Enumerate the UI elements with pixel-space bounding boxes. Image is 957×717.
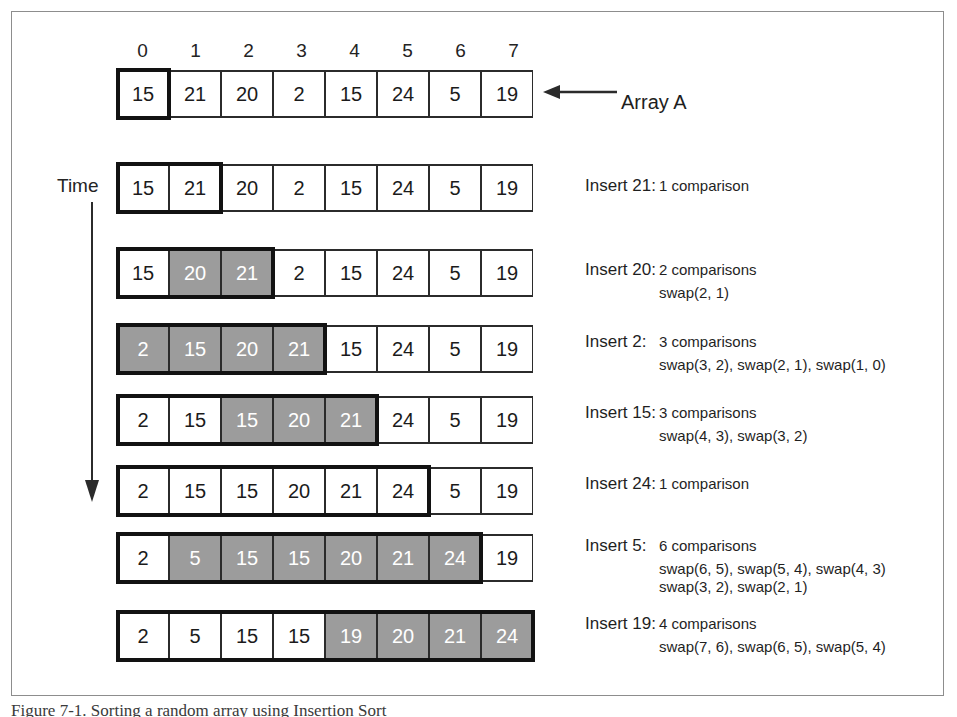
array-cell: 24 [376, 396, 429, 444]
array-cell: 20 [220, 325, 273, 373]
array-cell: 21 [168, 164, 221, 212]
column-index-6: 6 [434, 40, 487, 62]
array-cell: 15 [116, 249, 169, 297]
annotation-insert-19: Insert 19:4 comparisonsswap(7, 6), swap(… [585, 614, 886, 655]
comparison-count: 1 comparison [659, 177, 749, 194]
annotation-insert-21: Insert 21:1 comparison [585, 176, 749, 196]
column-index-5: 5 [381, 40, 434, 62]
array-cell: 5 [428, 249, 481, 297]
array-cell: 21 [168, 70, 221, 118]
array-a-label: Array A [621, 91, 687, 114]
column-index-header: 01234567 [116, 40, 540, 62]
array-cell: 19 [480, 164, 533, 212]
array-row-insert-19: 25151519202124 [116, 612, 532, 660]
array-cell: 21 [376, 534, 429, 582]
array-cell: 20 [220, 70, 273, 118]
array-a-arrow-icon [543, 82, 619, 106]
array-cell: 21 [428, 612, 481, 660]
time-axis-label: Time [57, 175, 99, 197]
array-cell: 19 [480, 325, 533, 373]
array-cell: 24 [428, 534, 481, 582]
comparison-count: 6 comparisons [659, 537, 757, 554]
array-row-insert-2: 21520211524519 [116, 325, 532, 373]
array-cell: 15 [168, 467, 221, 515]
annotation-insert-15: Insert 15:3 comparisonsswap(4, 3), swap(… [585, 403, 807, 444]
annotation-insert-24: Insert 24:1 comparison [585, 474, 749, 494]
array-row-insert-21: 15212021524519 [116, 164, 532, 212]
array-cell: 15 [116, 164, 169, 212]
array-cell: 20 [272, 396, 325, 444]
array-cell: 5 [428, 467, 481, 515]
annotation-insert-2: Insert 2:3 comparisonsswap(3, 2), swap(2… [585, 332, 886, 373]
array-row-initial-array: 15212021524519 [116, 70, 532, 118]
array-cell: 15 [220, 534, 273, 582]
array-cell: 21 [324, 467, 377, 515]
array-cell: 24 [376, 70, 429, 118]
array-row-insert-20: 15202121524519 [116, 249, 532, 297]
insert-label: Insert 20: [585, 260, 659, 280]
array-cell: 2 [272, 70, 325, 118]
array-cell: 15 [324, 249, 377, 297]
comparison-count: 3 comparisons [659, 404, 757, 421]
comparison-count: 2 comparisons [659, 261, 757, 278]
insert-label: Insert 15: [585, 403, 659, 423]
array-cell: 5 [168, 612, 221, 660]
array-cell: 15 [324, 70, 377, 118]
array-cell: 19 [480, 70, 533, 118]
comparison-count: 1 comparison [659, 475, 749, 492]
array-cell: 15 [272, 534, 325, 582]
array-cell: 5 [428, 164, 481, 212]
array-cell: 5 [428, 70, 481, 118]
array-cell: 5 [168, 534, 221, 582]
array-cell: 2 [272, 164, 325, 212]
array-cell: 15 [272, 612, 325, 660]
array-cell: 15 [324, 164, 377, 212]
array-cell: 20 [324, 534, 377, 582]
time-arrow-icon [82, 202, 102, 506]
array-cell: 15 [116, 70, 169, 118]
array-row-insert-15: 21515202124519 [116, 396, 532, 444]
figure-frame: 01234567 Time Array A 152120215245191521… [11, 11, 944, 696]
insert-label: Insert 24: [585, 474, 659, 494]
comparison-count: 4 comparisons [659, 615, 757, 632]
array-row-insert-24: 21515202124519 [116, 467, 532, 515]
swap-list: swap(7, 6), swap(6, 5), swap(5, 4) [659, 638, 886, 655]
array-cell: 15 [168, 325, 221, 373]
array-cell: 15 [220, 612, 273, 660]
column-index-7: 7 [487, 40, 540, 62]
array-cell: 5 [428, 396, 481, 444]
column-index-3: 3 [275, 40, 328, 62]
array-cell: 24 [376, 467, 429, 515]
array-cell: 19 [480, 249, 533, 297]
array-cell: 21 [272, 325, 325, 373]
column-index-2: 2 [222, 40, 275, 62]
column-index-1: 1 [169, 40, 222, 62]
array-cell: 20 [168, 249, 221, 297]
array-cell: 2 [116, 325, 169, 373]
array-cell: 19 [480, 396, 533, 444]
array-cell: 2 [116, 467, 169, 515]
array-cell: 20 [376, 612, 429, 660]
swap-list: swap(2, 1) [659, 284, 757, 301]
array-cell: 15 [168, 396, 221, 444]
array-cell: 19 [480, 534, 533, 582]
array-cell: 21 [220, 249, 273, 297]
insert-label: Insert 5: [585, 536, 659, 556]
array-row-insert-5: 25151520212419 [116, 534, 532, 582]
swap-list: swap(3, 2), swap(2, 1), swap(1, 0) [659, 356, 886, 373]
array-cell: 20 [220, 164, 273, 212]
array-cell: 24 [376, 325, 429, 373]
swap-list: swap(6, 5), swap(5, 4), swap(4, 3) [659, 560, 886, 577]
array-cell: 15 [220, 396, 273, 444]
annotation-insert-5: Insert 5:6 comparisonsswap(6, 5), swap(5… [585, 536, 886, 595]
swap-list-continued: swap(3, 2), swap(2, 1) [659, 578, 886, 595]
figure-caption: Figure 7-1. Sorting a random array using… [11, 701, 951, 717]
array-cell: 2 [116, 612, 169, 660]
array-cell: 19 [324, 612, 377, 660]
array-cell: 2 [116, 396, 169, 444]
array-cell: 19 [480, 467, 533, 515]
array-cell: 2 [272, 249, 325, 297]
insert-label: Insert 21: [585, 176, 659, 196]
annotation-insert-20: Insert 20:2 comparisonsswap(2, 1) [585, 260, 757, 301]
insert-label: Insert 19: [585, 614, 659, 634]
